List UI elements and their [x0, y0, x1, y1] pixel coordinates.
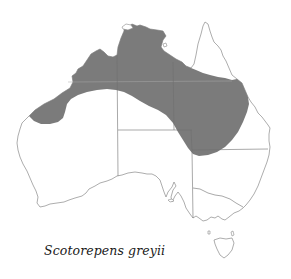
tasmania [214, 238, 234, 258]
species-caption: Scotorepens greyii [44, 243, 165, 258]
australia-map [0, 0, 291, 279]
flinders-island [231, 231, 234, 236]
distribution-map-figure: Scotorepens greyii [0, 0, 291, 279]
groote-eylandt [163, 43, 167, 47]
king-island [208, 231, 210, 234]
